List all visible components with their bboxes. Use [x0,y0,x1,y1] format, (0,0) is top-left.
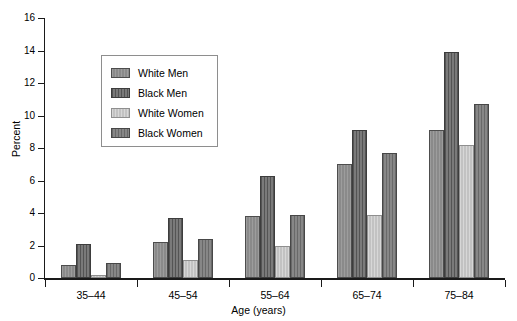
bar [429,130,444,278]
y-axis-tick [38,148,44,149]
legend-item: Black Women [111,123,217,143]
bar [260,176,275,278]
legend-swatch-icon [111,88,130,98]
x-axis-tick [505,280,506,287]
bar [106,263,121,278]
bar-chart: 0246810121416 Percent 35–4445–5455–6465–… [0,0,517,321]
y-axis-tick-label: 4 [0,208,35,218]
legend-item-label: Black Men [138,88,187,99]
x-axis-category-label: 55–64 [229,289,321,301]
bar [61,265,76,278]
bar [91,275,106,278]
bar [275,246,290,279]
y-axis-tick-label: 2 [0,241,35,251]
legend-swatch-icon [111,128,130,138]
x-axis-tick [229,280,230,287]
y-axis-tick-label: 12 [0,78,35,88]
bar [290,215,305,278]
bar [382,153,397,278]
y-axis-tick [38,51,44,52]
bar [444,52,459,278]
legend-item: White Men [111,63,217,83]
x-axis-tick [321,280,322,287]
x-axis-tick [137,280,138,287]
bar [198,239,213,278]
x-axis-tick [413,280,414,287]
y-axis-tick [38,213,44,214]
bar [474,104,489,278]
chart-legend: White MenBlack MenWhite WomenBlack Women [101,55,218,147]
bar [367,215,382,278]
legend-swatch-icon [111,108,130,118]
bar [76,244,91,278]
bar [168,218,183,278]
y-axis-tick [38,83,44,84]
y-axis-tick [38,18,44,19]
bar [245,216,260,278]
bar [183,260,198,278]
x-axis-line [44,278,505,280]
x-axis-category-label: 65–74 [321,289,413,301]
x-axis-title: Age (years) [0,304,517,316]
legend-item-label: Black Women [138,128,203,139]
x-axis-category-label: 45–54 [137,289,229,301]
x-axis-tick [45,280,46,287]
x-axis-category-label: 75–84 [413,289,505,301]
y-axis-tick [38,181,44,182]
y-axis-tick-label: 0 [0,273,35,283]
y-axis-tick [38,278,44,279]
legend-item: Black Men [111,83,217,103]
legend-swatch-icon [111,68,130,78]
y-axis-tick-label: 16 [0,13,35,23]
x-axis-category-label: 35–44 [45,289,137,301]
bar [352,130,367,278]
legend-item-label: White Men [138,68,188,79]
y-axis-tick [38,116,44,117]
y-axis-tick-label: 14 [0,46,35,56]
y-axis-tick [38,246,44,247]
legend-item: White Women [111,103,217,123]
legend-item-label: White Women [138,108,204,119]
bar [337,164,352,278]
y-axis-title: Percent [10,99,22,179]
bar [459,145,474,278]
bar [153,242,168,278]
